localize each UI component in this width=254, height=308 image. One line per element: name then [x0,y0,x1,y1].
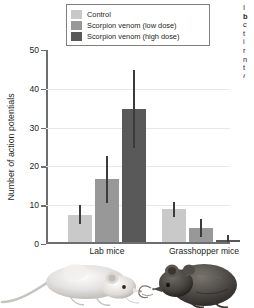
errorbar-grasshopper-high-dose [227,235,228,242]
y-tick-30 [41,128,46,129]
errorbar-grasshopper-low-dose [200,219,201,237]
legend-label-control: Control [87,10,111,19]
chart-legend: Control Scorpion venom (low dose) Scorpi… [66,4,210,46]
y-tick-label-50: 50 [29,46,39,55]
legend-swatch-low-dose [71,21,82,30]
lab-mouse-illustration [2,264,142,305]
y-tick-label-30: 30 [29,123,39,132]
y-axis-line [46,50,48,244]
legend-label-high-dose: Scorpion venom (high dose) [87,32,179,41]
y-tick-label-0: 0 [34,240,39,249]
y-tick-0 [41,244,46,245]
gridline-50 [46,50,230,51]
y-tick-label-10: 10 [29,201,39,210]
errorbar-grasshopper-control [173,202,174,217]
y-tick-40 [41,89,46,90]
y-tick-label-40: 40 [29,85,39,94]
mice-illustrations [0,258,254,308]
errorbar-lab-control [79,205,80,224]
y-tick-label-20: 20 [29,162,39,171]
x-axis-line [46,242,230,244]
errorbar-lab-high-dose [133,70,134,148]
y-axis-title: Number of action potentials [4,50,18,244]
x-tick-label-grasshopper-mice: Grasshopper mice [154,246,254,256]
legend-swatch-control [71,10,82,19]
legend-label-low-dose: Scorpion venom (low dose) [87,21,177,30]
y-tick-10 [41,205,46,206]
legend-item-control: Control [71,9,205,19]
y-tick-50 [41,50,46,51]
gridline-40 [46,89,230,90]
x-tick-label-lab-mice: Lab mice [62,246,152,256]
clipped-body-text-column: I b c t i r n t ( e [243,4,254,78]
errorbar-lab-low-dose [106,156,107,203]
y-tick-20 [41,166,46,167]
legend-item-low-dose: Scorpion venom (low dose) [71,20,205,30]
plot-area: 50 40 30 20 10 0 [46,50,230,244]
grasshopper-mouse-illustration [139,264,237,307]
bar-chart-figure: Control Scorpion venom (low dose) Scorpi… [0,0,254,308]
legend-swatch-high-dose [71,32,82,41]
y-axis-title-text: Number of action potentials [6,93,16,200]
legend-item-high-dose: Scorpion venom (high dose) [71,31,205,41]
clipped-text-line-9: ( [243,73,254,78]
